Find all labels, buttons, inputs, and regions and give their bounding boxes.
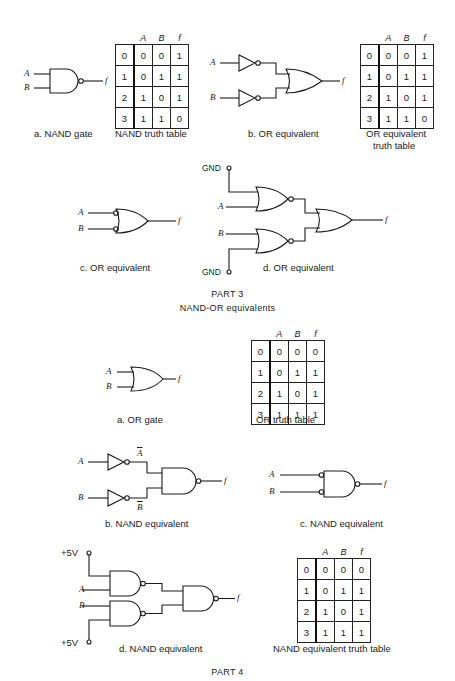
output-f-label: f: [105, 75, 108, 85]
part4-title: PART 4: [0, 667, 455, 677]
or-equivalent-d-caption: d. OR equivalent: [263, 262, 334, 273]
input-b-label: B: [106, 381, 112, 391]
or-equivalent-d-symbol: [226, 166, 383, 274]
or-equivalent-table-caption-2: truth table: [373, 140, 415, 151]
or-gate-symbol: [117, 367, 176, 391]
input-b-label: B: [24, 82, 30, 92]
nand-truth-table-caption: NAND truth table: [115, 128, 187, 139]
input-b-label: B: [79, 600, 85, 610]
output-f-label: f: [237, 592, 240, 602]
vcc-bottom-label: +5V: [61, 637, 78, 648]
nand-equivalent-c-symbol: [280, 471, 382, 497]
or-equivalent-table-caption-1: OR equivalent: [366, 128, 426, 139]
output-f-label: f: [178, 215, 181, 225]
output-f-label: f: [178, 373, 181, 383]
output-f-label: f: [384, 478, 387, 488]
input-b-label: B: [218, 228, 224, 238]
input-a-label: A: [78, 207, 84, 217]
input-b-label: B: [269, 486, 275, 496]
nand-equivalent-b-symbol: [88, 454, 222, 506]
output-f-label: f: [224, 475, 227, 485]
nand-equivalent-table-caption: NAND equivalent truth table: [273, 643, 391, 654]
input-a-label: A: [79, 584, 85, 594]
input-b-label: B: [210, 92, 216, 102]
gnd-bottom-label: GND: [202, 267, 221, 277]
input-a-label: A: [210, 57, 216, 67]
nand-gate-symbol: [34, 69, 103, 93]
vcc-top-label: +5V: [61, 547, 78, 558]
or-gate-caption: a. OR gate: [117, 414, 163, 425]
input-a-label: A: [218, 201, 224, 211]
input-b-label: B: [78, 223, 84, 233]
nand-truth-table: ABf 0001 1011 2101 3110: [115, 32, 189, 129]
nand-equivalent-d-caption: d. NAND equivalent: [119, 643, 202, 654]
output-f-label: f: [342, 75, 345, 85]
or-equivalent-truth-table: ABf 0001 1011 2101 3110: [360, 32, 434, 129]
or-equivalent-c-symbol: [88, 209, 176, 233]
or-truth-table-caption: OR truth table: [256, 414, 315, 425]
input-b-label: B: [78, 492, 84, 502]
nand-equivalent-truth-table: ABf 0000 1011 2101 3111: [297, 546, 371, 643]
nand-equivalent-c-caption: c. NAND equivalent: [300, 518, 383, 529]
input-a-label: A: [78, 456, 84, 466]
nand-gate-caption: a. NAND gate: [34, 128, 93, 139]
gnd-top-label: GND: [202, 163, 221, 173]
part3-title: PART 3: [0, 289, 455, 299]
output-f-label: f: [385, 214, 388, 224]
or-equivalent-b-caption: b. OR equivalent: [248, 128, 319, 139]
or-equivalent-c-caption: c. OR equivalent: [80, 262, 150, 273]
input-a-label: A: [24, 68, 30, 78]
input-a-label: A: [106, 366, 112, 376]
a-bar-label: A: [137, 448, 143, 458]
or-equivalent-b-symbol: [220, 55, 340, 106]
input-a-label: A: [269, 469, 275, 479]
nand-equivalent-b-caption: b. NAND equivalent: [105, 518, 188, 529]
part3-subtitle: NAND-OR equivalents: [0, 303, 455, 313]
or-truth-table: ABf 0000 1011 2101 3111: [251, 328, 325, 425]
b-bar-label: B: [137, 502, 143, 512]
nand-equivalent-d-symbol: [82, 551, 235, 644]
